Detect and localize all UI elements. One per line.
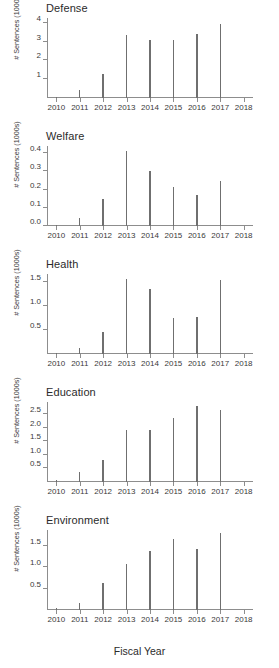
bar xyxy=(126,430,127,482)
y-tick xyxy=(43,59,47,60)
x-tick-label: 2016 xyxy=(188,359,206,368)
x-tick xyxy=(197,226,198,230)
bar xyxy=(196,406,197,482)
bar xyxy=(79,348,80,354)
bar xyxy=(79,603,80,610)
y-tick-label: 0.5 xyxy=(30,320,41,329)
plot-area: 0.51.01.52010201120122013201420152016201… xyxy=(47,530,253,610)
bar xyxy=(149,289,150,354)
bar xyxy=(196,549,197,610)
x-tick xyxy=(56,482,57,486)
y-tick xyxy=(43,329,47,330)
y-tick xyxy=(43,467,47,468)
x-tick-label: 2015 xyxy=(165,231,183,240)
x-tick xyxy=(80,98,81,102)
y-tick xyxy=(43,207,47,208)
y-axis-line xyxy=(47,18,48,98)
bar xyxy=(56,608,57,610)
x-tick-label: 2016 xyxy=(188,615,206,624)
x-tick xyxy=(220,610,221,614)
y-tick xyxy=(43,566,47,567)
x-tick-label: 2011 xyxy=(71,359,88,368)
x-tick xyxy=(56,354,57,358)
x-tick xyxy=(220,226,221,230)
y-tick xyxy=(43,189,47,190)
y-tick-label: 0.4 xyxy=(30,144,41,153)
y-axis-label: # Sentences (1000s) xyxy=(12,103,21,207)
y-tick xyxy=(43,427,47,428)
bar xyxy=(220,181,221,226)
bar xyxy=(196,34,197,98)
y-tick-label: 1.0 xyxy=(30,558,41,567)
x-tick xyxy=(127,354,128,358)
plot-area: 0.51.01.52.02.52010201120122013201420152… xyxy=(47,402,253,482)
x-tick xyxy=(103,610,104,614)
x-tick-label: 2015 xyxy=(165,103,183,112)
y-tick-label: 0.1 xyxy=(30,198,41,207)
x-tick xyxy=(103,354,104,358)
x-tick-label: 2010 xyxy=(47,103,65,112)
bar xyxy=(102,460,103,482)
x-tick-label: 2017 xyxy=(211,615,229,624)
x-tick xyxy=(197,98,198,102)
x-tick-label: 2011 xyxy=(71,231,88,240)
bar xyxy=(79,90,80,98)
bar xyxy=(149,430,150,482)
x-tick xyxy=(173,482,174,486)
bar xyxy=(220,410,221,482)
y-tick xyxy=(43,281,47,282)
bar xyxy=(56,97,57,98)
x-tick xyxy=(56,226,57,230)
bar xyxy=(126,151,127,226)
x-tick xyxy=(150,226,151,230)
x-tick xyxy=(56,98,57,102)
y-axis-label: # Sentences (1000s) xyxy=(12,231,21,335)
bar xyxy=(149,40,150,98)
x-tick xyxy=(80,226,81,230)
x-tick xyxy=(103,226,104,230)
bar xyxy=(173,318,174,354)
x-tick xyxy=(150,354,151,358)
x-tick xyxy=(197,482,198,486)
x-tick-label: 2014 xyxy=(141,231,159,240)
panel-title: Defense xyxy=(46,2,88,14)
x-tick-label: 2014 xyxy=(141,615,159,624)
y-tick xyxy=(43,22,47,23)
y-tick-label: 0.5 xyxy=(30,459,41,468)
bar xyxy=(126,279,127,354)
bar xyxy=(220,533,221,610)
bar xyxy=(173,40,174,98)
y-tick-label: 2.5 xyxy=(30,405,41,414)
y-tick xyxy=(43,413,47,414)
x-tick-label: 2016 xyxy=(188,231,206,240)
y-tick-label: 2.0 xyxy=(30,418,41,427)
y-axis-line xyxy=(47,402,48,482)
x-tick xyxy=(127,482,128,486)
y-tick-label: 1.0 xyxy=(30,445,41,454)
x-tick-label: 2018 xyxy=(235,487,253,496)
panel-title: Health xyxy=(46,258,78,270)
y-tick xyxy=(43,440,47,441)
y-tick xyxy=(43,41,47,42)
x-tick xyxy=(103,482,104,486)
x-tick xyxy=(197,610,198,614)
x-tick-label: 2011 xyxy=(71,615,88,624)
plot-area: 0.51.01.52010201120122013201420152016201… xyxy=(47,274,253,354)
x-tick xyxy=(56,610,57,614)
x-tick-label: 2018 xyxy=(235,615,253,624)
x-tick xyxy=(127,226,128,230)
x-tick-label: 2013 xyxy=(118,615,136,624)
x-tick-label: 2012 xyxy=(94,487,112,496)
y-tick xyxy=(43,225,47,226)
panel-defense: Defense# Sentences (1000s)12342010201120… xyxy=(0,0,279,128)
panel-title: Environment xyxy=(46,514,109,526)
x-tick-label: 2016 xyxy=(188,487,206,496)
x-tick-label: 2013 xyxy=(118,231,136,240)
x-tick xyxy=(80,354,81,358)
bar xyxy=(196,195,197,226)
panel-education: Education# Sentences (1000s)0.51.01.52.0… xyxy=(0,384,279,512)
x-tick-label: 2010 xyxy=(47,231,65,240)
bar xyxy=(56,225,57,226)
x-tick-label: 2015 xyxy=(165,487,183,496)
x-tick xyxy=(173,98,174,102)
